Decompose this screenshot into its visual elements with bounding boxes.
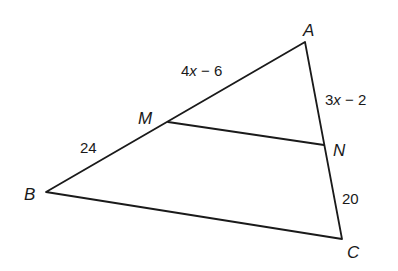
vertex-label-c: C (347, 243, 360, 262)
segment-label-am-coef: 4 (181, 62, 189, 79)
vertex-label-n: N (333, 141, 346, 160)
segment-label-an-const: − 2 (341, 91, 366, 108)
vertex-label-m: M (138, 109, 153, 128)
triangle-diagram: A M B N C 4x − 6 3x − 2 24 20 (0, 0, 398, 271)
vertex-label-b: B (24, 185, 35, 204)
segment-label-mb: 24 (80, 139, 97, 156)
segment-label-an-coef: 3 (325, 91, 333, 108)
segment-label-am: 4x − 6 (181, 62, 222, 79)
segment-mn (168, 122, 324, 145)
vertex-label-a: A (302, 21, 314, 40)
segment-label-nc: 20 (342, 190, 359, 207)
segment-label-am-const: − 6 (197, 62, 222, 79)
segment-label-an: 3x − 2 (325, 91, 366, 108)
